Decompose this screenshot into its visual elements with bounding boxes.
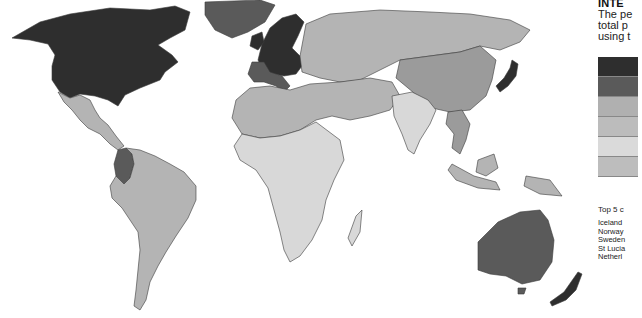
region-madagascar [348,210,362,246]
legend-panel: INTE The pe total p using t Top 5 c Icel… [598,0,642,318]
region-north-america [12,6,190,106]
subtitle-line: using t [598,31,632,42]
legend-swatch-5 [598,137,638,157]
region-japan [496,60,518,92]
legend-swatch-2 [598,77,638,97]
region-new-zealand [550,272,582,306]
top5-heading: Top 5 c [598,205,624,214]
region-southeast-asia [446,110,470,154]
legend-swatch-1 [598,57,638,77]
world-choropleth-map [0,0,590,318]
legend-swatch-6 [598,157,638,177]
region-sub-saharan-africa [234,122,344,262]
region-india [392,92,436,154]
region-tasmania [518,288,526,294]
region-australia [478,210,554,284]
top5-item: Netherl [598,253,625,262]
region-greenland [205,0,275,38]
map-legend [598,57,638,177]
legend-swatch-3 [598,97,638,117]
map-subtitle: The pe total p using t [598,9,632,42]
legend-swatch-4 [598,117,638,137]
region-borneo [476,154,498,176]
region-new-guinea [524,176,562,196]
top5-list: Iceland Norway Sweden St Lucia Netherl [598,219,625,262]
